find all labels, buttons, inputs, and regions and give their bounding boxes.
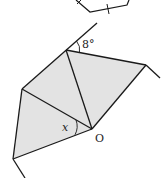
hexagon-fragment [76,0,129,12]
edge-D-extended [13,159,25,178]
geometry-diagram: 8° x O [0,0,161,178]
angle-label-x: x [62,121,69,134]
angle-arc-top [77,41,80,53]
diagram-svg: 8° x O [0,0,161,178]
edge-B-extended [146,65,160,78]
angle-label-top: 8° [82,38,95,51]
center-label-O: O [95,132,104,145]
